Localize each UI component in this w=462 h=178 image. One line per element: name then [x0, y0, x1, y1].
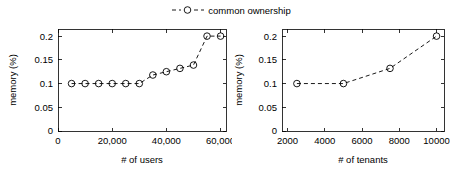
data-point — [150, 72, 157, 79]
x-tick-label: 8000 — [389, 135, 410, 146]
y-tick-label: 0.2 — [40, 31, 53, 42]
chart-panel-tenants: 20004000600080001000000.050.10.150.2# of… — [232, 0, 462, 178]
y-tick-label: 0 — [272, 125, 277, 136]
chart-svg-tenants: 20004000600080001000000.050.10.150.2# of… — [232, 0, 462, 178]
y-axis-title: memory (%) — [233, 54, 244, 106]
chart-svg-users: 020,00040,00060,00000.050.10.150.2# of u… — [0, 0, 232, 178]
plot-frame — [58, 29, 226, 131]
series-line-0 — [297, 36, 437, 83]
data-point — [177, 65, 184, 72]
x-tick-label: 2000 — [277, 135, 298, 146]
y-tick-label: 0.1 — [40, 78, 53, 89]
x-tick-label: 60,000 — [206, 135, 232, 146]
x-tick-label: 0 — [55, 135, 60, 146]
data-point — [387, 65, 394, 72]
y-tick-label: 0.05 — [259, 102, 278, 113]
y-axis-title: memory (%) — [7, 54, 18, 106]
data-point — [190, 62, 197, 69]
y-tick-label: 0.05 — [35, 102, 54, 113]
x-axis-title: # of users — [121, 154, 163, 165]
x-tick-label: 40,000 — [152, 135, 181, 146]
data-point — [163, 68, 170, 75]
x-axis-title: # of tenants — [338, 154, 388, 165]
plot-frame — [282, 29, 444, 131]
figure-canvas: common ownership 020,00040,00060,00000.0… — [0, 0, 462, 178]
y-tick-label: 0.15 — [35, 54, 54, 65]
y-tick-label: 0 — [48, 125, 53, 136]
x-tick-label: 10000 — [423, 135, 449, 146]
data-point — [433, 33, 440, 40]
series-line-0 — [72, 36, 221, 83]
x-tick-label: 6000 — [351, 135, 372, 146]
x-tick-label: 20,000 — [98, 135, 127, 146]
chart-panel-users: 020,00040,00060,00000.050.10.150.2# of u… — [0, 0, 232, 178]
y-tick-label: 0.1 — [264, 78, 277, 89]
y-tick-label: 0.15 — [259, 54, 278, 65]
y-tick-label: 0.2 — [264, 31, 277, 42]
x-tick-label: 4000 — [314, 135, 335, 146]
